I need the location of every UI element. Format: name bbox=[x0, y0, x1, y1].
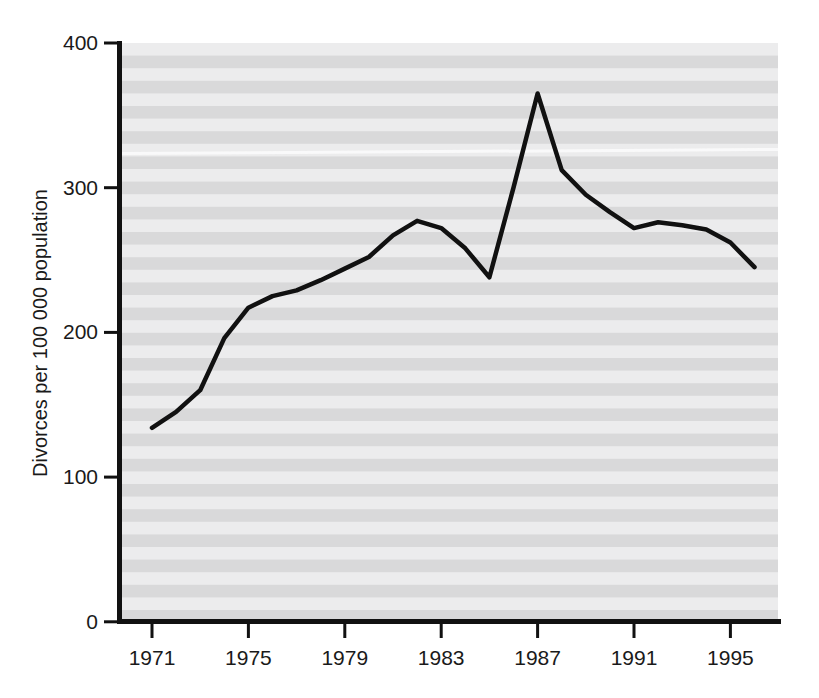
x-tick-1979 bbox=[343, 624, 346, 638]
y-axis-title: Divorces per 100 000 population bbox=[29, 189, 51, 477]
y-tick-label-200: 200 bbox=[63, 320, 98, 343]
plot-background bbox=[121, 43, 778, 622]
y-tick-400 bbox=[104, 42, 118, 45]
x-tick-1971 bbox=[151, 624, 154, 638]
chart-figure: 400 300 200 100 0 1971 1975 1979 1983 19… bbox=[0, 0, 819, 698]
x-tick-label-1979: 1979 bbox=[321, 646, 368, 669]
x-tick-1991 bbox=[633, 624, 636, 638]
x-tick-label-1995: 1995 bbox=[707, 646, 754, 669]
y-tick-100 bbox=[104, 476, 118, 479]
y-tick-label-0: 0 bbox=[86, 610, 98, 633]
x-tick-1983 bbox=[440, 624, 443, 638]
x-axis-line bbox=[117, 619, 781, 624]
x-tick-1995 bbox=[729, 624, 732, 638]
x-tick-label-1983: 1983 bbox=[418, 646, 465, 669]
x-tick-label-1971: 1971 bbox=[129, 646, 176, 669]
y-tick-label-400: 400 bbox=[63, 31, 98, 54]
x-tick-label-1975: 1975 bbox=[225, 646, 272, 669]
line-chart: 400 300 200 100 0 1971 1975 1979 1983 19… bbox=[0, 0, 819, 698]
y-tick-200 bbox=[104, 331, 118, 334]
y-tick-label-100: 100 bbox=[63, 465, 98, 488]
y-tick-0 bbox=[104, 620, 118, 623]
y-axis-ticks bbox=[104, 42, 118, 624]
x-tick-label-1991: 1991 bbox=[611, 646, 658, 669]
x-tick-label-1987: 1987 bbox=[514, 646, 561, 669]
x-tick-1975 bbox=[247, 624, 250, 638]
y-tick-300 bbox=[104, 186, 118, 189]
y-tick-label-300: 300 bbox=[63, 176, 98, 199]
x-axis-ticks bbox=[151, 624, 732, 638]
x-tick-1987 bbox=[536, 624, 539, 638]
